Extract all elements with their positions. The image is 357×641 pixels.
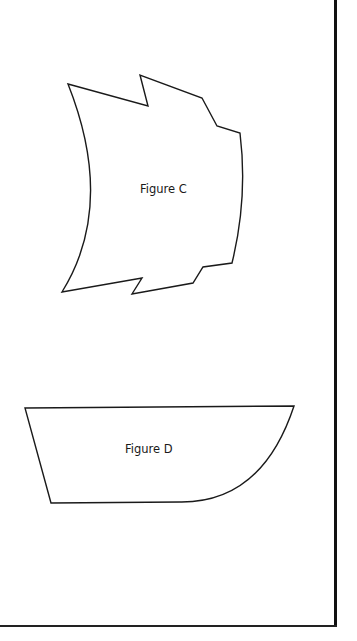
figures-canvas xyxy=(0,0,357,641)
figure-c-label: Figure C xyxy=(140,184,187,196)
page-border-right xyxy=(334,0,337,627)
page-border-bottom xyxy=(0,625,337,627)
worksheet-page: Figure C Figure D xyxy=(0,0,357,641)
figure-d-label: Figure D xyxy=(125,444,173,456)
